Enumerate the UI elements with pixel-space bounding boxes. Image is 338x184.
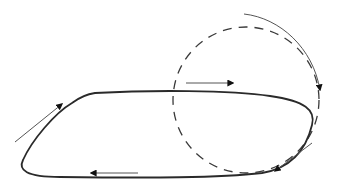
lower-right-arrow	[275, 143, 312, 171]
closed-loop-curve	[22, 91, 313, 177]
diagram-canvas	[0, 0, 338, 184]
outer-arc-arrow	[244, 14, 320, 90]
flow-loop-diagram	[0, 0, 338, 184]
dashed-circle	[173, 27, 319, 173]
